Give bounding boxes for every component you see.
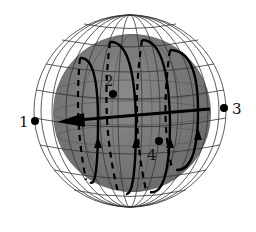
point-1-label: 1 [19, 113, 29, 131]
point-1: 1 [19, 113, 39, 131]
point-2-label: 2 [104, 72, 114, 90]
point-3-label: 3 [232, 100, 242, 118]
point-3: 3 [220, 100, 242, 118]
sphere-diagram: 1 2 3 4 [0, 0, 256, 232]
point-4-label: 4 [147, 146, 157, 164]
